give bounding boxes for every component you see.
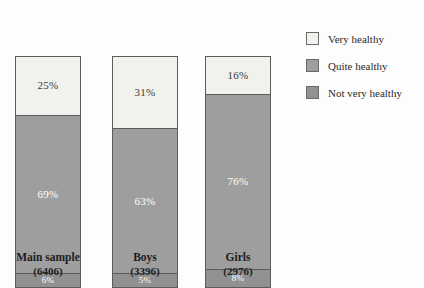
segment-value-label: 69%: [38, 189, 59, 200]
segment-value-label: 25%: [38, 80, 59, 91]
segment-value-label: 63%: [135, 196, 156, 207]
category-label-main-sample: Main sample (6406): [0, 250, 103, 278]
legend-label: Quite healthy: [328, 60, 388, 72]
category-count: (6406): [0, 264, 103, 278]
segment-value-label: 76%: [228, 176, 249, 187]
bar-segment-very-healthy: 31%: [113, 57, 177, 128]
plot-area: 25% 69% 6% 31% 63% 5%: [0, 0, 290, 288]
legend-item-not-very-healthy: Not very healthy: [306, 79, 424, 106]
legend-swatch-icon: [306, 59, 319, 72]
chart-legend: Very healthy Quite healthy Not very heal…: [306, 25, 424, 106]
segment-value-label: 31%: [135, 87, 156, 98]
category-label-girls: Girls (2976): [183, 250, 293, 278]
bar-segment-very-healthy: 16%: [206, 57, 270, 94]
legend-swatch-icon: [306, 32, 319, 45]
segment-value-label: 16%: [228, 70, 249, 81]
category-name: Girls: [183, 250, 293, 264]
category-axis-labels: Main sample (6406) Boys (3396) Girls (29…: [0, 250, 290, 288]
legend-label: Very healthy: [328, 33, 384, 45]
bar-segment-very-healthy: 25%: [16, 57, 80, 115]
stacked-bar-chart: 25% 69% 6% 31% 63% 5%: [0, 0, 424, 288]
legend-swatch-icon: [306, 86, 319, 99]
legend-item-very-healthy: Very healthy: [306, 25, 424, 52]
bar-segment-quite-healthy: 76%: [206, 94, 270, 269]
category-count: (2976): [183, 264, 293, 278]
legend-item-quite-healthy: Quite healthy: [306, 52, 424, 79]
legend-label: Not very healthy: [328, 87, 402, 99]
category-name: Main sample: [0, 250, 103, 264]
